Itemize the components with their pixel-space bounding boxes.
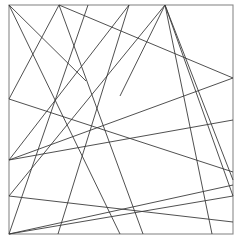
line-drawing-canvas	[0, 0, 242, 242]
line-drawing-figure	[0, 0, 242, 242]
figure-background	[0, 0, 242, 242]
